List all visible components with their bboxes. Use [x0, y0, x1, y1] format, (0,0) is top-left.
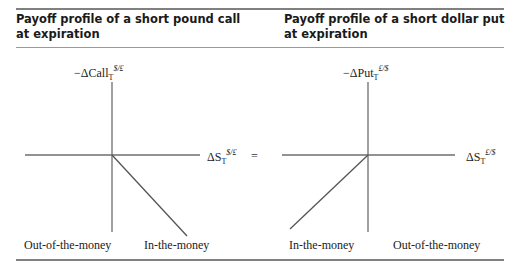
- left-x-axis-label: ΔST$/£: [207, 148, 237, 166]
- left-region-in-the-money: In-the-money: [144, 238, 209, 253]
- left-payoff-line: [112, 155, 187, 236]
- right-region-in-the-money: In-the-money: [289, 238, 354, 253]
- left-region-out-of-money: Out-of-the-money: [24, 238, 111, 253]
- right-x-axis-label: ΔST£/$: [466, 148, 496, 166]
- equals-sign: =: [251, 149, 258, 164]
- right-y-axis-label: −ΔPutT£/$: [343, 64, 389, 82]
- payoff-diagrams: [0, 0, 522, 266]
- right-region-out-of-money: Out-of-the-money: [393, 238, 480, 253]
- right-payoff-line: [290, 155, 368, 229]
- left-y-axis-label: −ΔCallT$/£: [74, 64, 124, 82]
- left-payoff-diagram: [25, 82, 200, 236]
- right-payoff-diagram: [282, 82, 455, 232]
